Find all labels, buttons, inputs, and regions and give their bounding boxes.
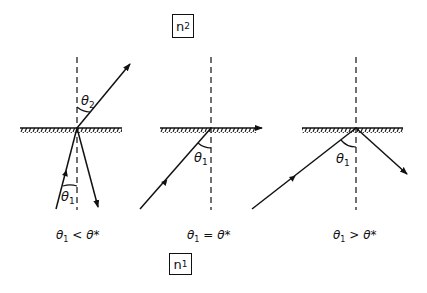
theta2-label: θ2 <box>81 93 95 110</box>
panel-critical: θ1 <box>140 57 262 210</box>
incident-ray <box>252 128 356 209</box>
medium-n2-label: n2 <box>172 14 194 38</box>
theta1-label: θ1 <box>336 151 350 168</box>
theta1-arc <box>198 143 211 148</box>
theta1-label: θ1 <box>61 189 75 206</box>
refraction-diagram: θ2 θ1 θ1 θ1 <box>0 0 427 293</box>
theta1-label: θ1 <box>194 150 208 167</box>
theta1-arc <box>63 185 77 186</box>
condition-caption-critical: θ1 = θ* <box>187 228 231 244</box>
medium-subscript: 1 <box>182 259 188 269</box>
incident-ray <box>140 128 211 209</box>
panel-subcritical: θ2 θ1 <box>20 57 130 210</box>
medium-symbol: n <box>174 257 182 272</box>
medium-n1-label: n1 <box>169 253 192 275</box>
panel-supercritical: θ1 <box>252 57 407 210</box>
totally-reflected-ray <box>356 128 407 174</box>
medium-subscript: 2 <box>184 21 190 31</box>
theta1-arc <box>341 140 356 147</box>
condition-caption-subcritical: θ1 < θ* <box>56 228 100 244</box>
reflected-ray <box>77 128 98 207</box>
incident-direction-arrow-icon <box>161 178 169 186</box>
medium-symbol: n <box>176 19 184 34</box>
condition-caption-supercritical: θ1 > θ* <box>333 228 377 244</box>
